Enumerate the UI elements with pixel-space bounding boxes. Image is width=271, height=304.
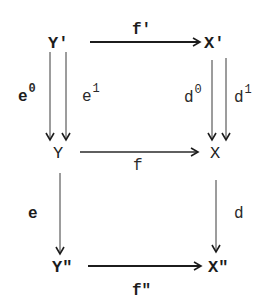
node-y-prime: Y'	[48, 34, 68, 53]
label-f-prime: f'	[132, 21, 151, 39]
node-x-prime: X'	[204, 34, 224, 53]
node-y: Y	[53, 144, 63, 163]
node-y-double-prime: Y"	[52, 258, 72, 277]
label-f: f	[133, 157, 143, 175]
label-d1: d1	[234, 83, 252, 107]
label-f-double-prime: f"	[132, 282, 151, 300]
commutative-diagram: Y' X' Y X Y" X" f' e0 e1 d0 d1 f e d f"	[0, 0, 271, 304]
label-d0: d0	[184, 83, 202, 107]
node-x: X	[210, 144, 220, 163]
label-e: e	[28, 205, 38, 223]
label-d: d	[234, 205, 244, 223]
label-e1: e1	[82, 82, 100, 106]
node-x-double-prime: X"	[208, 258, 228, 277]
label-e0: e0	[18, 82, 36, 106]
